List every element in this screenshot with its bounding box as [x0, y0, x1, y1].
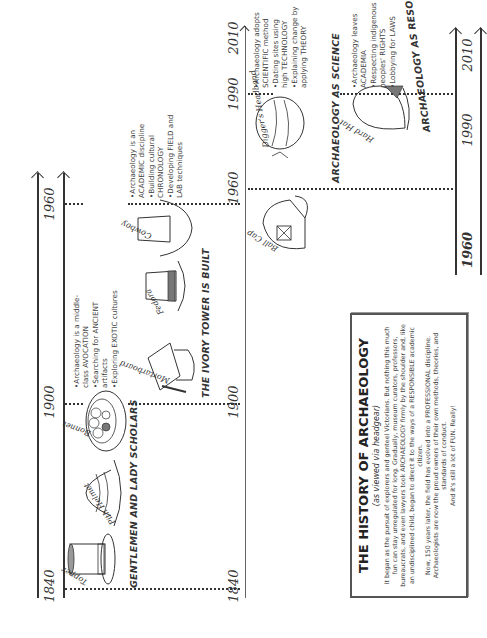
infobox-paragraph: Now, 150 years later, the field has evol… — [424, 321, 449, 590]
timeline-1-bottom-axis — [63, 173, 65, 598]
year-label: 1900 — [42, 385, 57, 418]
fedora-icon — [140, 258, 195, 313]
era-title: ARCHAEOLOGY AS SCIENCE — [330, 33, 341, 183]
year-label: 2010 — [460, 38, 475, 71]
infobox-paragraph: It began as the pursuit of explorers and… — [383, 321, 424, 590]
year-label: 1960 — [42, 187, 57, 220]
timeline-3-bottom-axis — [480, 28, 482, 275]
era-1-bullets: •Archaeology is a middle- class AVOCATIO… — [72, 290, 119, 388]
year-label: 1990 — [226, 77, 241, 110]
infobox-paragraph: And it's still a lot of FUN. Really! — [449, 321, 457, 590]
arrow-icon — [57, 171, 70, 184]
year-label: 1990 — [460, 113, 475, 146]
infobox-subtitle: (as viewed via headgear) — [372, 321, 381, 590]
year-label: 2010 — [226, 21, 241, 54]
year-label: 1960 — [460, 232, 475, 268]
era-title: GENTLEMEN AND LADY SCHOLARS — [128, 399, 139, 588]
timeline-2-axis — [245, 26, 246, 598]
year-label: 1960 — [226, 171, 241, 204]
era-title: THE IVORY TOWER IS BUILT — [200, 248, 211, 398]
era-4-bullets: •Archaeology leaves ACADEMIA •Respecting… — [350, 2, 397, 88]
era-boundary-1960 — [248, 188, 453, 190]
era-3-bullets: •Archaeology adopts SCIENTIFIC method •D… — [252, 6, 308, 88]
year-label: 1840 — [226, 569, 241, 602]
year-label: 1900 — [226, 385, 241, 418]
arrow-icon — [31, 171, 44, 184]
timeline-1-top-axis — [37, 173, 39, 598]
arrow-icon — [474, 27, 487, 40]
timeline-3-top-axis — [455, 28, 457, 275]
era-boundary-1960 — [65, 203, 83, 205]
era-2-bullets: •Archaeology is an ACADEMIC discipline •… — [128, 115, 184, 198]
year-label: 1840 — [42, 569, 57, 602]
era-boundary — [128, 403, 240, 405]
history-info-box: THE HISTORY OF ARCHAEOLOGY (as viewed vi… — [350, 313, 468, 598]
ball-cap-icon — [255, 193, 315, 258]
era-boundary-1840 — [65, 588, 240, 590]
infobox-title: THE HISTORY OF ARCHAEOLOGY — [356, 321, 371, 590]
arrow-icon — [240, 26, 250, 36]
bonnet-icon — [66, 388, 131, 453]
